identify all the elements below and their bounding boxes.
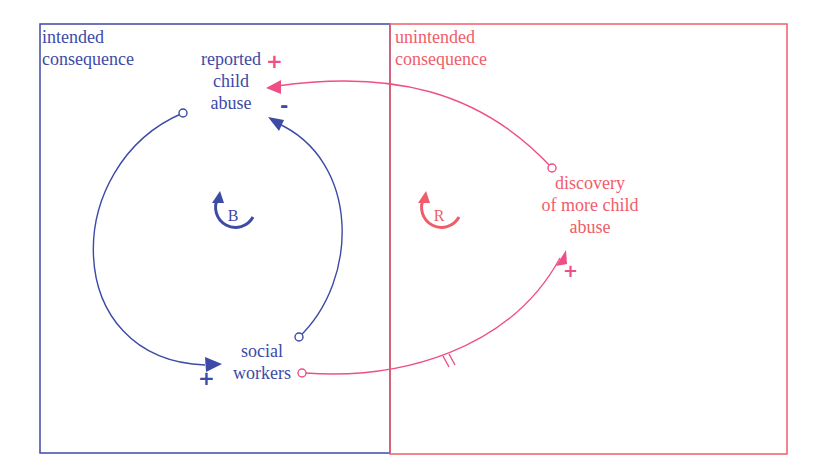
polarity-plus-discovery-reported: + [266, 51, 283, 71]
reinforcing-loop-label: R [431, 205, 447, 227]
link-discovery-to-reported [266, 80, 556, 172]
unintended-region-label: unintended consequence [395, 26, 487, 70]
intended-label-line1: intended [42, 26, 134, 48]
variable-social-workers: social workers [222, 340, 302, 384]
variable-line: of more child [525, 194, 655, 216]
variable-line: workers [222, 362, 302, 384]
unintended-label-line2: consequence [395, 48, 487, 70]
link-reported-to-social-workers [93, 109, 222, 372]
variable-line: abuse [186, 92, 276, 114]
intended-label-line2: consequence [42, 48, 134, 70]
variable-line: discovery [525, 172, 655, 194]
variable-line: abuse [525, 216, 655, 238]
polarity-plus-social-discovery: + [563, 262, 578, 280]
variable-line: child [186, 70, 276, 92]
link-social-workers-to-reported [268, 117, 342, 341]
unintended-consequence-region [390, 24, 787, 454]
intended-region-label: intended consequence [42, 26, 134, 70]
balancing-loop-label: B [225, 205, 241, 227]
polarity-minus-social-reported: - [280, 95, 288, 115]
delay-mark [443, 354, 455, 367]
variable-line: social [222, 340, 302, 362]
variable-reported-child-abuse: reported child abuse [186, 48, 276, 114]
polarity-plus-reported-social: + [198, 368, 215, 388]
variable-discovery-of-more-child-abuse: discovery of more child abuse [525, 172, 655, 238]
variable-line: reported [186, 48, 276, 70]
unintended-label-line1: unintended [395, 26, 487, 48]
link-social-workers-to-discovery [298, 250, 567, 377]
